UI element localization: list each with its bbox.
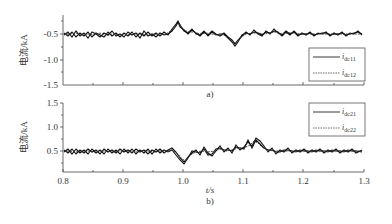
panel-b: 1.5 1.0 0.5 0.8 0.9 1.0 1.1 1.2 1.3 电流/k… <box>18 98 370 206</box>
ytick-label: -1.0 <box>44 55 59 65</box>
legend-top: idc11 idc12 <box>309 48 365 81</box>
series-idc22 <box>64 141 362 161</box>
y-axis-label-top: 电流/kA <box>18 34 29 66</box>
legend-bottom: idc21 idc22 <box>309 103 365 136</box>
ytick-label: -0.5 <box>44 29 59 39</box>
xtick-label: 1.1 <box>237 176 248 186</box>
panel-a: -0.5 -1.0 -1.5 电流/kA idc11 idc12 a) <box>18 15 365 99</box>
panel-label-a: a) <box>207 89 214 99</box>
xtick-label: 0.9 <box>117 176 129 186</box>
xtick-label: 1.2 <box>297 176 308 186</box>
ytick-label: -1.5 <box>44 80 59 90</box>
xtick-label: 1.0 <box>177 176 189 186</box>
panel-label-b: b) <box>206 196 214 206</box>
x-axis-label: t/s <box>206 185 215 195</box>
y-axis-label-bottom: 电流/kA <box>18 121 29 153</box>
figure: -0.5 -1.0 -1.5 电流/kA idc11 idc12 a) <box>0 0 392 224</box>
ytick-label: 0.5 <box>47 146 59 156</box>
ytick-label: 1.5 <box>47 98 59 108</box>
xtick-label: 0.8 <box>57 176 69 186</box>
xtick-label: 1.3 <box>358 176 370 186</box>
series-idc11 <box>64 21 362 46</box>
ytick-label: 1.0 <box>47 122 59 132</box>
